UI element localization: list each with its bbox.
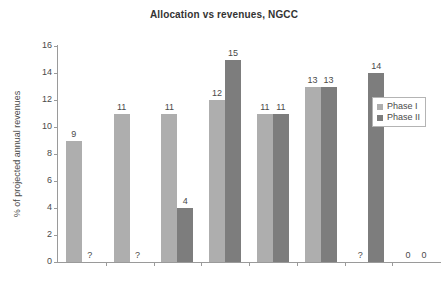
y-tick-label: 6 bbox=[47, 175, 52, 186]
chart-title: Allocation vs revenues, NGCC bbox=[0, 9, 448, 20]
x-tick-mark bbox=[345, 262, 346, 266]
bar-value-poland-phase-2: 14 bbox=[368, 61, 384, 71]
bar-value-estonia-phase-2: ? bbox=[130, 250, 146, 260]
bar-finland-phase-2 bbox=[177, 208, 193, 262]
x-tick-mark bbox=[392, 262, 393, 266]
bar-value-sweden-phase-1: 0 bbox=[400, 250, 416, 260]
bar-value-denmark-phase-1: 9 bbox=[66, 129, 82, 139]
legend-item-phase-2: Phase II bbox=[377, 112, 420, 123]
y-tick-mark bbox=[54, 100, 58, 101]
bar-value-germany-phase-1: 12 bbox=[209, 88, 225, 98]
legend-label-phase-2: Phase II bbox=[387, 112, 420, 123]
bar-value-germany-phase-2: 15 bbox=[225, 48, 241, 58]
legend-label-phase-1: Phase I bbox=[387, 101, 418, 112]
y-tick-label: 12 bbox=[42, 94, 52, 105]
plot-area: 02468101214169?Denmark11?Estonia114Finla… bbox=[58, 46, 440, 262]
y-tick-mark bbox=[54, 73, 58, 74]
x-tick-mark bbox=[297, 262, 298, 266]
chart-legend: Phase I Phase II bbox=[372, 97, 426, 127]
y-tick-label: 14 bbox=[42, 67, 52, 78]
y-tick-label: 0 bbox=[47, 256, 52, 267]
x-tick-mark bbox=[154, 262, 155, 266]
bar-denmark-phase-1 bbox=[66, 141, 82, 263]
y-tick-mark bbox=[54, 208, 58, 209]
y-tick-mark bbox=[54, 262, 58, 263]
bar-germany-phase-1 bbox=[209, 100, 225, 262]
bar-latvia-phase-2 bbox=[273, 114, 289, 263]
bar-value-lithuania-phase-2: 13 bbox=[321, 75, 337, 85]
bar-value-denmark-phase-2: ? bbox=[82, 250, 98, 260]
bar-value-latvia-phase-1: 11 bbox=[257, 102, 273, 112]
y-axis-label: % of projected annual revenues bbox=[12, 46, 26, 262]
y-tick-mark bbox=[54, 127, 58, 128]
bar-value-lithuania-phase-1: 13 bbox=[305, 75, 321, 85]
y-tick-label: 8 bbox=[47, 148, 52, 159]
y-tick-label: 10 bbox=[42, 121, 52, 132]
bar-lithuania-phase-2 bbox=[321, 87, 337, 263]
y-tick-mark bbox=[54, 181, 58, 182]
bar-value-latvia-phase-2: 11 bbox=[273, 102, 289, 112]
y-tick-mark bbox=[54, 235, 58, 236]
bar-chart: Allocation vs revenues, NGCC % of projec… bbox=[0, 0, 448, 299]
x-tick-mark bbox=[201, 262, 202, 266]
bar-value-estonia-phase-1: 11 bbox=[114, 102, 130, 112]
bar-value-sweden-phase-2: 0 bbox=[416, 250, 432, 260]
y-tick-mark bbox=[54, 154, 58, 155]
bar-latvia-phase-1 bbox=[257, 114, 273, 263]
legend-swatch-phase-1-icon bbox=[377, 104, 383, 110]
bar-value-finland-phase-2: 4 bbox=[177, 196, 193, 206]
bar-value-finland-phase-1: 11 bbox=[161, 102, 177, 112]
x-tick-mark bbox=[249, 262, 250, 266]
x-tick-mark bbox=[106, 262, 107, 266]
bar-germany-phase-2 bbox=[225, 60, 241, 263]
legend-swatch-phase-2-icon bbox=[377, 115, 383, 121]
bar-lithuania-phase-1 bbox=[305, 87, 321, 263]
y-tick-mark bbox=[54, 46, 58, 47]
y-tick-label: 2 bbox=[47, 229, 52, 240]
bar-value-poland-phase-1: ? bbox=[352, 250, 368, 260]
legend-item-phase-1: Phase I bbox=[377, 101, 420, 112]
bar-finland-phase-1 bbox=[161, 114, 177, 263]
y-tick-label: 4 bbox=[47, 202, 52, 213]
y-tick-label: 16 bbox=[42, 40, 52, 51]
bar-estonia-phase-1 bbox=[114, 114, 130, 263]
